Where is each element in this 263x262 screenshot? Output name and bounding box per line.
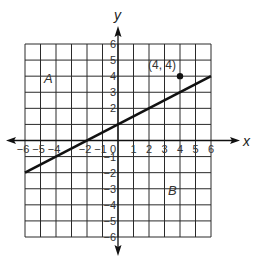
y-tick-label: −2 [103, 167, 116, 179]
x-tick-label: 4 [177, 143, 183, 155]
y-tick-label: 6 [110, 38, 116, 50]
data-point-label: (4, 4) [148, 58, 176, 72]
y-tick-label: −4 [103, 199, 116, 211]
y-tick-label: 3 [110, 86, 116, 98]
region-label-b: B [168, 183, 177, 198]
x-tick-label: −6 [17, 143, 30, 155]
x-tick-label: −4 [48, 143, 61, 155]
y-tick-label: 2 [110, 102, 116, 114]
data-point [177, 73, 183, 79]
x-tick-label: −5 [32, 143, 45, 155]
x-axis-label: x [242, 133, 251, 149]
y-tick-label: −5 [103, 215, 116, 227]
x-tick-label: 5 [192, 143, 198, 155]
x-tick-label: 1 [130, 143, 136, 155]
y-tick-label: −3 [103, 183, 116, 195]
x-tick-label: 6 [208, 143, 214, 155]
y-tick-label: 5 [110, 54, 116, 66]
coordinate-plane: −6−5−4−2−112345665432−1−2−3−4−5−60 (4, 4… [0, 0, 263, 262]
y-tick-label: −6 [103, 231, 116, 243]
origin-label: 0 [110, 143, 116, 155]
region-label-a: A [43, 71, 53, 86]
x-tick-label: 2 [146, 143, 152, 155]
x-tick-label: 3 [161, 143, 167, 155]
y-axis-label: y [113, 7, 122, 23]
y-tick-label: 4 [110, 70, 116, 82]
